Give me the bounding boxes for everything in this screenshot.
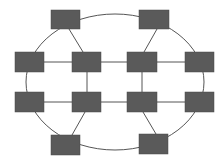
node-r1-inner-right (127, 52, 157, 72)
edge-top-right-to-r1-inner-right (144, 29, 157, 52)
network-diagram (0, 0, 224, 166)
edge-group (44, 29, 185, 135)
node-r2-inner-right (127, 92, 157, 112)
node-bottom-right (139, 134, 168, 154)
node-r2-inner-left (72, 92, 101, 112)
node-group (15, 10, 214, 155)
edge-r2-inner-right-to-bottom-right (143, 112, 156, 134)
edge-top-left-to-r1-inner-left (69, 29, 83, 52)
node-r1-outer-right (185, 52, 214, 72)
node-r1-inner-left (72, 52, 101, 72)
node-r1-outer-left (15, 52, 44, 72)
edge-r2-inner-left-to-bottom-left (72, 112, 85, 135)
node-r2-outer-left (15, 92, 44, 112)
node-top-right (139, 10, 169, 29)
network-diagram-canvas (0, 0, 224, 166)
node-r2-outer-right (185, 92, 214, 112)
node-bottom-left (51, 135, 80, 155)
node-top-left (51, 10, 80, 29)
ring-connection (26, 14, 204, 150)
